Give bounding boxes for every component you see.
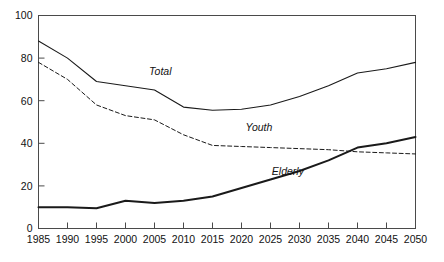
x-tick-label-2030: 2030	[288, 233, 312, 245]
x-tick-label-2035: 2035	[317, 233, 341, 245]
y-tick-label-40: 40	[21, 137, 33, 149]
y-tick-label-60: 60	[21, 95, 33, 107]
x-tick-label-2050: 2050	[404, 233, 428, 245]
x-tick-label-2020: 2020	[230, 233, 254, 245]
y-tick-label-20: 20	[21, 180, 33, 192]
series-label-total: Total	[149, 65, 172, 77]
chart-background	[0, 0, 444, 262]
x-tick-label-2000: 2000	[114, 233, 138, 245]
x-tick-label-1995: 1995	[85, 233, 109, 245]
chart-container: 020406080100 198519901995200020052010201…	[0, 0, 444, 262]
x-tick-label-2045: 2045	[375, 233, 399, 245]
x-tick-label-1985: 1985	[27, 233, 51, 245]
series-label-youth: Youth	[245, 121, 272, 133]
series-label-elderly: Elderly	[272, 165, 305, 177]
dependency-ratio-line-chart: 020406080100 198519901995200020052010201…	[0, 0, 444, 262]
y-tick-label-100: 100	[15, 9, 33, 21]
x-tick-label-2040: 2040	[346, 233, 370, 245]
x-tick-label-2005: 2005	[143, 233, 167, 245]
y-tick-label-80: 80	[21, 52, 33, 64]
x-tick-label-1990: 1990	[56, 233, 80, 245]
x-tick-label-2015: 2015	[201, 233, 225, 245]
x-tick-label-2010: 2010	[172, 233, 196, 245]
x-tick-label-2025: 2025	[259, 233, 283, 245]
